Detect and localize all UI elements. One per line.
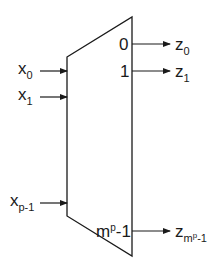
input-label-xp1: xp-1: [10, 192, 34, 209]
port-label-1: 1: [120, 63, 129, 80]
port-label-0: 0: [119, 36, 128, 53]
input-label-x0: x0: [18, 60, 33, 77]
output-label-z1: z1: [175, 63, 190, 80]
output-label-zlast: zmp-1: [175, 223, 207, 240]
input-label-x1: x1: [18, 86, 33, 103]
port-label-last: mp-1: [96, 223, 131, 240]
output-label-z0: z0: [175, 36, 190, 53]
